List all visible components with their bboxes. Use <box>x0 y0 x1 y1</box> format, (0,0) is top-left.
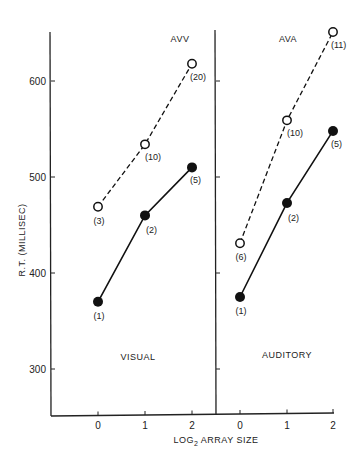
sample-size-label: (1) <box>94 311 105 321</box>
series-open-visual: (3)(10)(20) <box>94 60 207 226</box>
y-tick-label: 600 <box>29 76 46 87</box>
open-circle-marker <box>283 116 291 124</box>
sample-size-label: (2) <box>146 225 157 235</box>
y-axis-line <box>50 32 51 416</box>
sample-size-label: (2) <box>288 213 299 223</box>
sample-size-label: (5) <box>331 139 342 149</box>
panel-label-ava: AVA <box>279 34 297 44</box>
filled-circle-marker <box>93 297 103 307</box>
panel-label-auditory: AUDITORY <box>262 350 312 360</box>
sample-size-label: (3) <box>94 216 105 226</box>
series-line <box>98 64 192 207</box>
sample-size-label: (6) <box>236 252 247 262</box>
panel-label-visual: VISUAL <box>120 352 155 362</box>
series-filled-auditory: (1)(2)(5) <box>235 126 342 316</box>
open-circle-marker <box>329 28 337 36</box>
filled-circle-marker <box>140 210 150 220</box>
series-line <box>98 167 192 301</box>
panel-divider <box>215 30 216 415</box>
open-circle-marker <box>94 203 102 211</box>
sample-size-label: (11) <box>331 40 346 50</box>
filled-circle-marker <box>235 292 245 302</box>
x-tick-label: 0 <box>237 420 243 431</box>
y-tick-label: 400 <box>29 268 46 279</box>
open-circle-marker <box>141 140 149 148</box>
panel-label-avv: AVV <box>171 34 190 44</box>
x-tick-label: 1 <box>142 420 148 431</box>
y-tick-label: 300 <box>29 364 46 375</box>
x-tick-label: 0 <box>95 420 101 431</box>
x-axis-title-rest: ARRAY SIZE <box>198 435 258 445</box>
open-circle-marker <box>236 239 244 247</box>
series-open-auditory: (6)(10)(11) <box>236 28 347 262</box>
chart-canvas: 300400500600 012012 (3)(10)(20)(1)(2)(5)… <box>0 0 358 467</box>
sample-size-label: (10) <box>287 128 303 138</box>
series-layer: (3)(10)(20)(1)(2)(5)(6)(10)(11)(1)(2)(5) <box>93 28 346 321</box>
x-axis-title: LOG2 ARRAY SIZE <box>173 435 258 447</box>
filled-circle-marker <box>187 162 197 172</box>
y-tick-label: 500 <box>29 172 46 183</box>
x-tick-label: 2 <box>189 420 195 431</box>
y-axis-ticks: 300400500600 <box>29 76 220 375</box>
filled-circle-marker <box>328 126 338 136</box>
series-line <box>240 131 333 297</box>
sample-size-label: (10) <box>145 152 161 162</box>
x-axis-title-main: LOG <box>173 435 194 445</box>
y-axis-title: R.T. (MILLISEC) <box>17 203 27 276</box>
filled-circle-marker <box>282 198 292 208</box>
x-tick-label: 2 <box>330 420 336 431</box>
sample-size-label: (1) <box>236 306 247 316</box>
series-filled-visual: (1)(2)(5) <box>93 162 201 320</box>
sample-size-label: (20) <box>190 72 206 82</box>
sample-size-label: (5) <box>190 175 201 185</box>
x-tick-label: 1 <box>284 420 290 431</box>
open-circle-marker <box>188 60 196 68</box>
